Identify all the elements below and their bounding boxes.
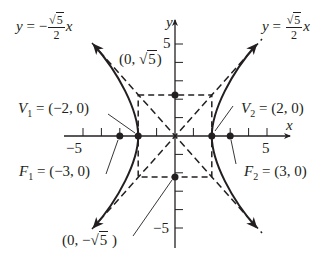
co-vertex-top-label: (0, √5) xyxy=(119,52,162,67)
co-vertex-bottom-label: (0, −√5 ) xyxy=(62,233,117,248)
x-axis-label: x xyxy=(286,118,293,133)
asymptote-positive-lhs: = xyxy=(269,18,285,34)
leader-f1 xyxy=(106,140,118,174)
vertex-v2-label: V2 = (2, 0) xyxy=(241,101,304,116)
tick-label-y-pos5: 5 xyxy=(163,36,171,51)
focus-f1-label: F1 = (−3, 0) xyxy=(19,164,90,179)
asymptote-negative-lhs: = − xyxy=(23,18,47,34)
vertex-v1-label: V1 = (−2, 0) xyxy=(18,101,89,116)
tick-label-x-neg5: −5 xyxy=(66,141,82,156)
leader-v1 xyxy=(108,114,135,133)
vertex-v1-point xyxy=(135,133,142,140)
leader-f2 xyxy=(231,140,236,164)
y-axis-label: y xyxy=(166,15,173,30)
asymptote-positive-label: y = √52x xyxy=(262,14,310,41)
focus-f2-label: F2 = (3, 0) xyxy=(244,164,307,179)
asymptote-negative-label: y = −√52x xyxy=(16,14,72,41)
co-vertex-bottom-point xyxy=(172,174,179,181)
co-vertex-top-point xyxy=(172,91,179,98)
tick-label-x-pos5: 5 xyxy=(262,141,270,156)
focus-f2-point xyxy=(227,133,234,140)
focus-f1-point xyxy=(116,133,123,140)
tick-label-y-neg5: −5 xyxy=(153,221,169,236)
vertex-v2-point xyxy=(208,133,215,140)
